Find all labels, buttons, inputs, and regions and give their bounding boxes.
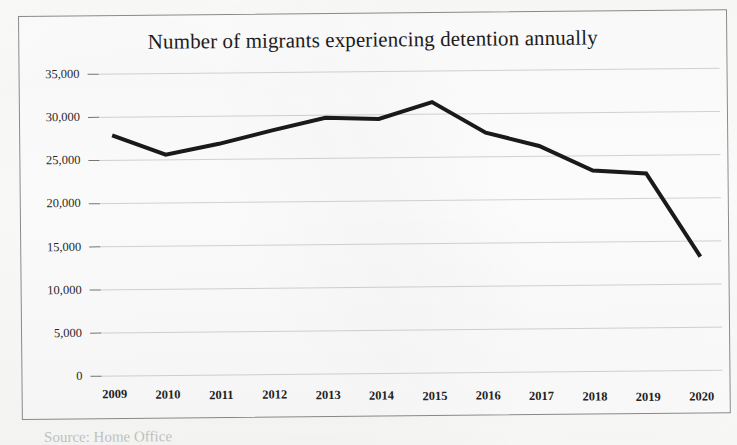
chart-plot-area: Number of migrants experiencing detentio… (19, 10, 730, 419)
x-axis-tick-label: 2010 (155, 387, 180, 402)
caption-remnant: Source: Home Office (44, 427, 344, 443)
x-axis-tick-label: 2015 (422, 388, 447, 403)
chart-frame: Number of migrants experiencing detentio… (18, 9, 731, 420)
x-axis-tick-label: 2009 (102, 387, 127, 402)
x-axis-tick-label: 2020 (689, 390, 714, 405)
x-axis-tick-label: 2012 (262, 388, 287, 403)
x-axis-tick-label: 2019 (636, 389, 661, 404)
x-axis-tick-label: 2014 (369, 388, 394, 403)
x-axis-tick-label: 2018 (582, 389, 607, 404)
x-axis-tick-label: 2013 (316, 388, 341, 403)
x-axis-labels: 2009201020112012201320142015201620172018… (19, 10, 732, 421)
x-axis-tick-label: 2011 (209, 387, 233, 402)
x-axis-tick-label: 2016 (476, 389, 501, 404)
x-axis-tick-label: 2017 (529, 389, 554, 404)
